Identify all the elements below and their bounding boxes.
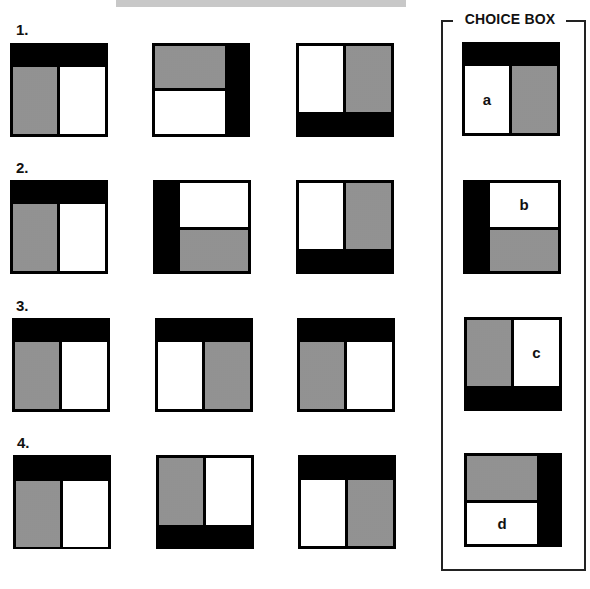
row3-figure3 xyxy=(297,318,395,412)
white-cell xyxy=(347,342,392,409)
gray-cell xyxy=(180,230,248,271)
row1-figure3 xyxy=(296,43,394,137)
white-cell xyxy=(62,342,107,409)
choice-a[interactable]: a xyxy=(462,42,560,136)
row4-figure2 xyxy=(156,455,254,549)
white-cell xyxy=(206,458,251,525)
gray-cell xyxy=(13,67,57,134)
gray-cell xyxy=(346,46,391,112)
white-cell xyxy=(155,91,225,134)
white-cell xyxy=(299,183,343,249)
gray-cell xyxy=(512,66,557,133)
gray-cell xyxy=(467,320,511,386)
choice-b[interactable]: b xyxy=(463,180,561,274)
choice-letter-d: d xyxy=(467,514,537,531)
white-cell xyxy=(180,183,248,227)
white-cell xyxy=(299,46,343,112)
white-cell xyxy=(158,342,202,409)
row4-figure3 xyxy=(298,455,396,549)
row3-figure2 xyxy=(155,318,253,412)
row2-figure2 xyxy=(153,180,251,274)
gray-cell xyxy=(205,342,250,409)
white-cell xyxy=(63,481,108,547)
white-cell: a xyxy=(465,66,509,133)
gray-cell xyxy=(490,230,558,271)
gray-cell xyxy=(348,480,393,546)
row2-figure1 xyxy=(10,180,108,274)
choice-letter-b: b xyxy=(490,196,558,213)
choice-box-title: CHOICE BOX xyxy=(455,11,565,27)
row1-figure1 xyxy=(10,43,108,137)
gray-cell xyxy=(15,342,59,409)
choice-d[interactable]: d xyxy=(464,453,562,547)
choice-letter-a: a xyxy=(465,90,509,107)
white-cell xyxy=(60,67,105,134)
white-cell: b xyxy=(490,183,558,227)
top-strip-header xyxy=(116,0,406,7)
row1-figure2 xyxy=(152,43,250,137)
row3-figure1 xyxy=(12,318,110,412)
gray-cell xyxy=(467,456,537,500)
row-label-1: 1. xyxy=(16,21,29,38)
gray-cell xyxy=(346,183,391,249)
choice-box-frame-top-left xyxy=(441,20,453,22)
gray-cell xyxy=(155,46,225,88)
gray-cell xyxy=(16,481,60,547)
white-cell: c xyxy=(514,320,559,386)
row-label-3: 3. xyxy=(16,297,29,314)
white-cell: d xyxy=(467,503,537,544)
row4-figure1 xyxy=(13,455,111,549)
choice-c[interactable]: c xyxy=(464,317,562,411)
choice-letter-c: c xyxy=(514,344,559,361)
gray-cell xyxy=(300,342,344,409)
row-label-4: 4. xyxy=(17,434,30,451)
white-cell xyxy=(301,480,345,546)
gray-cell xyxy=(159,458,203,525)
choice-box-frame-top-right xyxy=(566,20,586,22)
row2-figure3 xyxy=(296,180,394,274)
white-cell xyxy=(60,204,105,271)
row-label-2: 2. xyxy=(16,159,29,176)
gray-cell xyxy=(13,204,57,271)
